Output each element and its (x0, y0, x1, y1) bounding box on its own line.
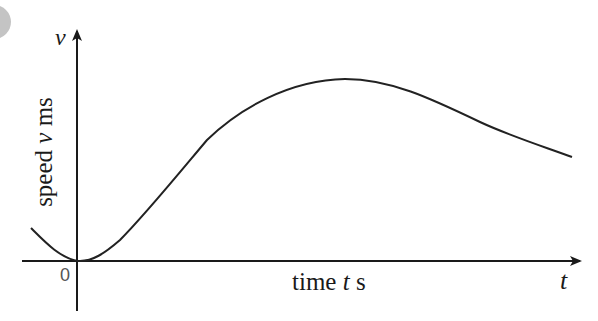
y-axis-title-prefix: speed (30, 144, 57, 207)
x-axis-title-prefix: time (292, 268, 343, 295)
x-axis-title-variable: t (343, 268, 350, 295)
y-axis-title-variable: v (30, 133, 57, 144)
speed-time-figure: v t 0 time t s speed v ms (0, 0, 598, 321)
x-axis-title-unit: s (350, 268, 366, 295)
y-axis-title: speed v ms (30, 97, 58, 207)
origin-label: 0 (60, 265, 70, 286)
y-axis-title-unit: ms (30, 97, 57, 132)
speed-curve (31, 79, 572, 261)
x-axis-title: time t s (292, 268, 366, 296)
y-axis-variable-label: v (55, 24, 66, 51)
x-axis-variable-label: t (560, 266, 567, 296)
